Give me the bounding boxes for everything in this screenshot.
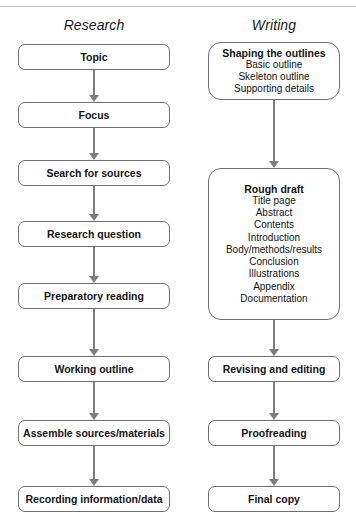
node-revising-and-editing[interactable]: Revising and editing bbox=[208, 356, 340, 382]
node-topic[interactable]: Topic bbox=[18, 44, 170, 70]
node-sub-item: Appendix bbox=[253, 281, 295, 293]
node-label: Revising and editing bbox=[223, 363, 326, 375]
node-sub-item: Title page bbox=[252, 195, 296, 207]
top-divider-rule bbox=[0, 6, 356, 7]
arrow-working-outline-to-assemble-sources bbox=[89, 382, 100, 420]
arrow-revising-and-editing-to-proofreading bbox=[269, 382, 280, 420]
column-header-research: Research bbox=[18, 17, 170, 33]
node-assemble-sources-materials[interactable]: Assemble sources/materials bbox=[18, 420, 170, 446]
arrow-assemble-sources-to-recording-information bbox=[89, 446, 100, 486]
node-sub-item: Abstract bbox=[256, 207, 293, 219]
node-sub-item: Supporting details bbox=[234, 83, 314, 95]
node-label: Focus bbox=[79, 109, 110, 121]
arrow-proofreading-to-final-copy bbox=[269, 446, 280, 486]
node-label: Assemble sources/materials bbox=[23, 427, 165, 439]
node-rough-draft[interactable]: Rough draft Title page Abstract Contents… bbox=[208, 168, 340, 320]
node-shaping-the-outlines[interactable]: Shaping the outlines Basic outline Skele… bbox=[208, 42, 340, 100]
node-proofreading[interactable]: Proofreading bbox=[208, 420, 340, 446]
arrow-preparatory-reading-to-working-outline bbox=[89, 309, 100, 356]
node-focus[interactable]: Focus bbox=[18, 102, 170, 128]
node-sub-item: Conclusion bbox=[249, 256, 298, 268]
arrow-research-question-to-preparatory-reading bbox=[89, 247, 100, 283]
node-label: Topic bbox=[80, 51, 107, 63]
node-sub-item: Body/methods/results bbox=[226, 244, 322, 256]
node-label: Shaping the outlines bbox=[222, 47, 325, 59]
arrow-rough-draft-to-revising-and-editing bbox=[269, 320, 280, 356]
node-sub-item: Illustrations bbox=[249, 268, 300, 280]
node-recording-information-data[interactable]: Recording information/data bbox=[18, 486, 170, 512]
node-label: Working outline bbox=[54, 363, 133, 375]
arrow-topic-to-focus bbox=[89, 70, 100, 102]
arrow-focus-to-search-for-sources bbox=[89, 128, 100, 160]
node-preparatory-reading[interactable]: Preparatory reading bbox=[18, 283, 170, 309]
node-final-copy[interactable]: Final copy bbox=[208, 486, 340, 512]
arrow-search-for-sources-to-research-question bbox=[89, 186, 100, 221]
node-sub-item: Introduction bbox=[248, 232, 300, 244]
node-working-outline[interactable]: Working outline bbox=[18, 356, 170, 382]
node-sub-item: Contents bbox=[254, 219, 294, 231]
node-label: Recording information/data bbox=[25, 493, 162, 505]
node-label: Proofreading bbox=[241, 427, 306, 439]
node-label: Rough draft bbox=[244, 183, 304, 195]
node-label: Final copy bbox=[248, 493, 300, 505]
node-search-for-sources[interactable]: Search for sources bbox=[18, 160, 170, 186]
arrow-shaping-outlines-to-rough-draft bbox=[269, 100, 280, 168]
node-label: Preparatory reading bbox=[44, 290, 144, 302]
node-sub-item: Documentation bbox=[240, 293, 307, 305]
flowchart-canvas: Research Writing Topic Focus Search for … bbox=[0, 0, 356, 531]
node-sub-item: Basic outline bbox=[246, 59, 303, 71]
node-sub-item: Skeleton outline bbox=[238, 71, 309, 83]
node-label: Research question bbox=[47, 228, 141, 240]
column-header-writing: Writing bbox=[208, 17, 340, 33]
node-label: Search for sources bbox=[46, 167, 141, 179]
node-research-question[interactable]: Research question bbox=[18, 221, 170, 247]
